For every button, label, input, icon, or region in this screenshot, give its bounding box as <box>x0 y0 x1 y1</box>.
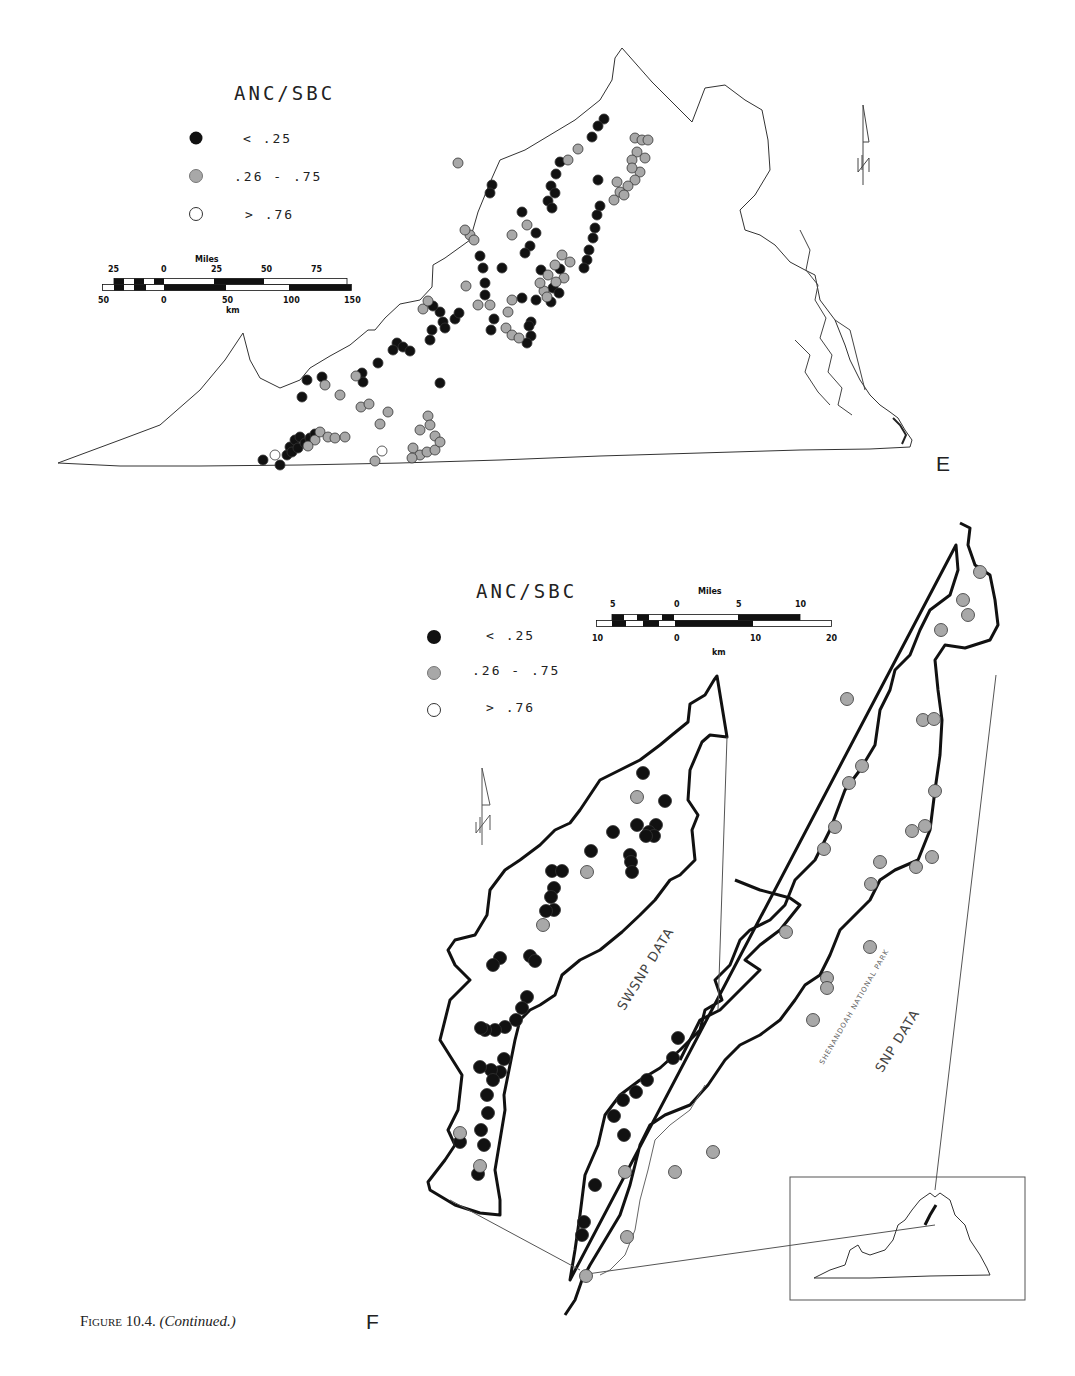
north-arrow-icon <box>474 765 504 850</box>
scale-km-title-f: km <box>712 648 726 657</box>
legend-label-high-f: > .76 <box>486 700 535 715</box>
swsnp-boundary <box>428 676 727 1215</box>
panel-letter-f: F <box>366 1310 379 1334</box>
scale-tick: 5 <box>736 600 742 609</box>
scale-miles-title-f: Miles <box>698 587 722 596</box>
caption-figure-number: Figure 10.4. <box>80 1313 156 1329</box>
inset-park-highlight <box>925 1205 936 1225</box>
connector-lines <box>450 675 996 1275</box>
scale-tick: 20 <box>826 634 837 643</box>
legend-label-low-f: < .25 <box>486 628 535 643</box>
snp-boundary <box>565 523 998 1315</box>
legend-title-f: ANC/SBC <box>476 580 577 602</box>
gray-dot-icon <box>426 665 442 681</box>
scale-tick: 10 <box>592 634 603 643</box>
scale-tick: 10 <box>795 600 806 609</box>
shenandoah-park-map <box>0 0 1075 1376</box>
scale-tick: 0 <box>674 600 680 609</box>
virginia-inset-outline <box>814 1193 990 1278</box>
legend-label-mid-f: .26 - .75 <box>472 663 560 678</box>
scale-bar-f <box>596 614 836 628</box>
white-dot-icon <box>426 702 442 718</box>
scale-tick: 10 <box>750 634 761 643</box>
black-dot-icon <box>426 629 442 645</box>
figure-caption: Figure 10.4. (Continued.) <box>80 1313 236 1330</box>
caption-continued: (Continued.) <box>159 1313 235 1329</box>
scale-tick: 5 <box>610 600 616 609</box>
virginia-inset-frame <box>790 1177 1025 1300</box>
scale-tick: 0 <box>674 634 680 643</box>
